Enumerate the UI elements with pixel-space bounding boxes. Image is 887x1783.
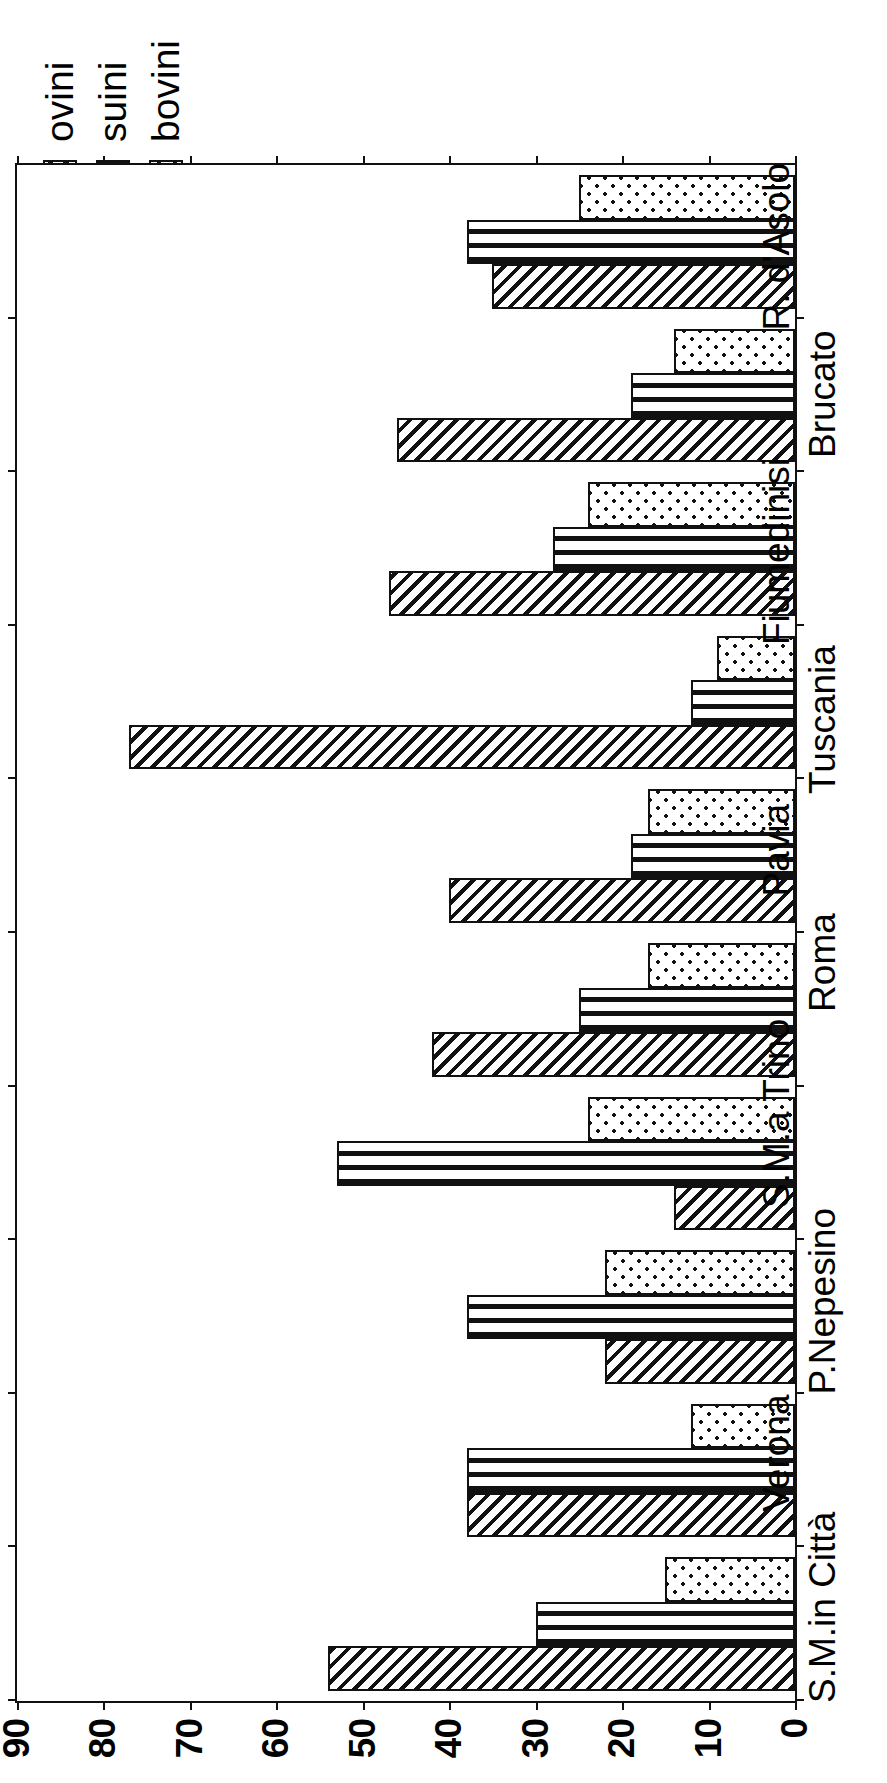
- bar-ovini[interactable]: [449, 879, 795, 924]
- legend-label-bovini: bovini: [146, 40, 185, 142]
- category-label: Brucato: [800, 330, 880, 458]
- value-tick-label-50: 50: [344, 1719, 381, 1781]
- category-tick-top: [8, 1085, 17, 1087]
- bar-bovini[interactable]: [674, 329, 795, 374]
- bar-group-bars: [17, 165, 795, 319]
- bar-ovini[interactable]: [492, 264, 795, 309]
- value-tick-label-80: 80: [84, 1719, 121, 1781]
- rotated-figure-wrapper: ovini suini bovini 0102030405060708090 S…: [0, 0, 887, 1783]
- bar-group-bars: [17, 626, 795, 780]
- bar-group: [17, 1087, 795, 1241]
- bar-group: [17, 626, 795, 780]
- value-tick-right-10: [709, 156, 711, 165]
- value-tick-right-30: [536, 156, 538, 165]
- value-tick-right-90: [17, 156, 19, 165]
- category-label: R. d'Asolo: [754, 163, 834, 330]
- value-tick-70: [190, 1701, 192, 1710]
- bar-suini[interactable]: [467, 220, 795, 265]
- bar-ovini[interactable]: [389, 571, 795, 616]
- value-tick-label-70: 70: [171, 1719, 208, 1781]
- bar-group: [17, 933, 795, 1087]
- category-tick-top: [8, 1238, 17, 1240]
- value-tick-label-30: 30: [517, 1719, 554, 1781]
- bar-group: [17, 1394, 795, 1548]
- value-tick-40: [449, 1701, 451, 1710]
- bar-suini[interactable]: [536, 1602, 795, 1647]
- bar-ovini[interactable]: [605, 1339, 795, 1384]
- bar-group-bars: [17, 1394, 795, 1548]
- value-tick-80: [103, 1701, 105, 1710]
- bar-group: [17, 165, 795, 319]
- category-tick-top: [8, 317, 17, 319]
- bar-ovini[interactable]: [328, 1646, 795, 1691]
- value-tick-right-40: [449, 156, 451, 165]
- category-tick-top: [8, 1545, 17, 1547]
- bar-ovini[interactable]: [467, 1493, 795, 1538]
- bar-bovini[interactable]: [665, 1557, 795, 1602]
- bar-group-bars: [17, 1087, 795, 1241]
- bar-group: [17, 779, 795, 933]
- plot-area: 0102030405060708090: [15, 163, 797, 1703]
- bar-group-bars: [17, 1547, 795, 1701]
- bar-group: [17, 472, 795, 626]
- value-tick-0: [795, 1701, 797, 1710]
- value-tick-right-60: [276, 156, 278, 165]
- bar-suini[interactable]: [631, 373, 795, 418]
- bar-ovini[interactable]: [397, 418, 795, 463]
- bar-group: [17, 319, 795, 473]
- category-label: S.M.in Città: [800, 1512, 880, 1703]
- bar-suini[interactable]: [467, 1448, 795, 1493]
- value-tick-50: [363, 1701, 365, 1710]
- bar-suini[interactable]: [337, 1141, 795, 1186]
- bar-suini[interactable]: [691, 680, 795, 725]
- value-tick-right-50: [363, 156, 365, 165]
- value-tick-10: [709, 1701, 711, 1710]
- bar-group-bars: [17, 319, 795, 473]
- category-label: Fiumedinisi: [754, 458, 834, 645]
- category-label: Roma: [800, 906, 880, 1018]
- category-tick-top: [8, 777, 17, 779]
- bar-ovini[interactable]: [129, 725, 795, 770]
- bar-group-bars: [17, 472, 795, 626]
- bar-ovini[interactable]: [432, 1032, 795, 1077]
- value-tick-label-40: 40: [430, 1719, 467, 1781]
- category-label: Pavia: [754, 794, 834, 906]
- bar-groups: [17, 165, 795, 1701]
- value-tick-label-90: 90: [0, 1719, 35, 1781]
- category-label: Tuscania: [800, 645, 880, 794]
- category-label: Verona: [754, 1395, 834, 1512]
- value-tick-90: [17, 1701, 19, 1710]
- value-tick-right-80: [103, 156, 105, 165]
- category-tick-top: [8, 470, 17, 472]
- category-tick-top: [8, 931, 17, 933]
- value-tick-right-70: [190, 156, 192, 165]
- bar-chart-figure: ovini suini bovini 0102030405060708090 S…: [0, 0, 887, 1783]
- value-tick-right-20: [622, 156, 624, 165]
- value-tick-label-20: 20: [603, 1719, 640, 1781]
- category-tick-top: [8, 624, 17, 626]
- legend-label-ovini: ovini: [40, 62, 79, 142]
- value-tick-20: [622, 1701, 624, 1710]
- bar-group-bars: [17, 779, 795, 933]
- category-tick-top: [8, 1699, 17, 1701]
- category-label: P.Nepesino: [800, 1208, 880, 1395]
- bar-suini[interactable]: [467, 1295, 795, 1340]
- value-tick-label-0: 0: [776, 1719, 813, 1781]
- value-tick-30: [536, 1701, 538, 1710]
- category-axis-labels: S.M.in CittàVeronaP.NepesinoS.M.a TrinoR…: [800, 163, 880, 1703]
- category-label: S.M.a Trino: [754, 1019, 834, 1208]
- bar-group-bars: [17, 933, 795, 1087]
- bar-group: [17, 1547, 795, 1701]
- bar-bovini[interactable]: [648, 943, 795, 988]
- bar-bovini[interactable]: [605, 1250, 795, 1295]
- category-tick-top: [8, 1392, 17, 1394]
- bar-group-bars: [17, 1240, 795, 1394]
- bar-group: [17, 1240, 795, 1394]
- value-tick-label-10: 10: [690, 1719, 727, 1781]
- value-tick-label-60: 60: [257, 1719, 294, 1781]
- legend-label-suini: suini: [93, 62, 132, 142]
- value-tick-60: [276, 1701, 278, 1710]
